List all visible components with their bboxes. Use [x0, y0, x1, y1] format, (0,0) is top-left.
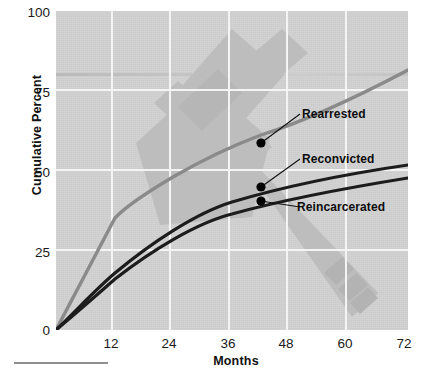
- y-tick-25: 25: [4, 245, 50, 260]
- data-curves: [56, 11, 408, 330]
- series-label-rearrested: Rearrested: [302, 107, 366, 121]
- chart-figure: Rearrested Reconvicted Reincarcerated 10…: [0, 0, 421, 373]
- series-label-reincarcerated: Reincarcerated: [297, 200, 385, 214]
- x-tick-24: 24: [149, 336, 189, 351]
- x-tick-60: 60: [325, 336, 365, 351]
- x-axis-title: Months: [176, 354, 296, 368]
- marker-reconvicted: [256, 182, 265, 191]
- leader-line-reconvicted: [261, 159, 300, 187]
- x-tick-72: 72: [384, 336, 421, 351]
- plot-area: [56, 11, 408, 330]
- marker-rearrested: [256, 138, 265, 147]
- leader-line-rearrested: [261, 114, 300, 143]
- y-tick-0: 0: [4, 323, 50, 338]
- x-tick-36: 36: [208, 336, 248, 351]
- y-tick-100: 100: [4, 5, 50, 20]
- y-axis-title: Cumulative Percent: [30, 50, 44, 220]
- line-reconvicted: [56, 165, 408, 330]
- x-tick-48: 48: [266, 336, 306, 351]
- x-tick-12: 12: [91, 336, 131, 351]
- series-label-reconvicted: Reconvicted: [302, 152, 374, 166]
- marker-reincarcerated: [256, 196, 265, 205]
- footer-rule: [14, 362, 108, 364]
